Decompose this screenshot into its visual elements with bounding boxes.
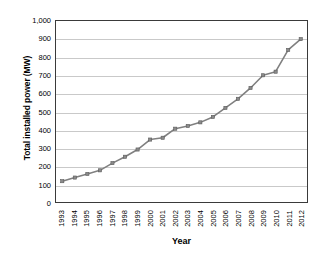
y-tick-label: 400 xyxy=(19,125,51,134)
series-line xyxy=(62,39,300,181)
data-point xyxy=(123,155,126,158)
y-tick-label: 600 xyxy=(19,89,51,98)
data-point xyxy=(111,162,114,165)
x-axis-tick-labels: 1993199419951996199719981999200020012002… xyxy=(55,205,308,237)
data-point xyxy=(224,106,227,109)
y-tick-label: 500 xyxy=(19,107,51,116)
y-tick-label: 300 xyxy=(19,144,51,153)
y-tick-label: 700 xyxy=(19,70,51,79)
data-point xyxy=(261,74,264,77)
x-tick-label: 2012 xyxy=(287,205,317,223)
plot-area xyxy=(55,20,308,203)
data-point xyxy=(236,97,239,100)
data-point xyxy=(174,127,177,130)
data-point xyxy=(61,180,64,183)
data-point xyxy=(73,176,76,179)
data-point xyxy=(249,86,252,89)
data-point xyxy=(287,48,290,51)
line-series xyxy=(56,21,307,202)
y-tick-label: 900 xyxy=(19,34,51,43)
data-point xyxy=(186,124,189,127)
y-axis-tick-labels: 1,0009008007006005004003002001000 xyxy=(19,14,51,210)
y-tick-label: 200 xyxy=(19,162,51,171)
series-markers xyxy=(61,38,303,183)
chart-figure: Total installed power (MW) 1,00090080070… xyxy=(0,0,335,256)
data-point xyxy=(98,169,101,172)
y-tick-label: 800 xyxy=(19,52,51,61)
data-point xyxy=(136,148,139,151)
data-point xyxy=(211,115,214,118)
data-point xyxy=(86,172,89,175)
y-tick-label: 100 xyxy=(19,180,51,189)
x-axis-title: Year xyxy=(55,236,308,246)
x-tick-label-text: 2012 xyxy=(297,210,306,227)
data-point xyxy=(274,70,277,73)
data-point xyxy=(161,136,164,139)
y-tick-label: 1,000 xyxy=(19,16,51,25)
data-point xyxy=(199,121,202,124)
data-point xyxy=(149,138,152,141)
data-point xyxy=(299,38,302,41)
